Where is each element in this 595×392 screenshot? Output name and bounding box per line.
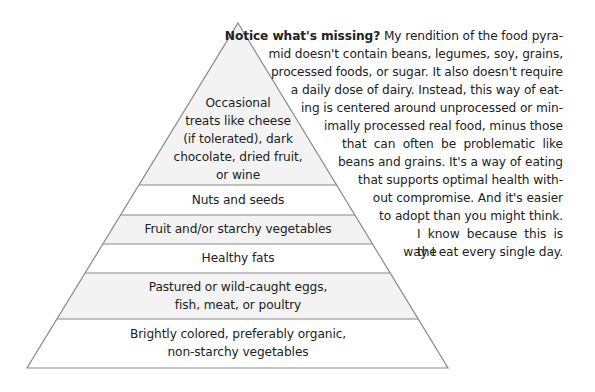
- paragraph-lead: Notice what's missing?: [225, 29, 380, 43]
- paragraph-line: a daily dose of dairy. Instead, this way…: [291, 81, 563, 99]
- tier-6-label: Brightly colored, preferably organic, no…: [58, 325, 418, 361]
- paragraph-line: Notice what's missing? My rendition of t…: [225, 27, 563, 45]
- paragraph-line: imally processed real food, minus those: [324, 117, 563, 135]
- tier-label-line: non-starchy vegetables: [58, 343, 418, 361]
- paragraph-line: ing is centered around unprocessed or mi…: [301, 99, 563, 117]
- tier-label-line: Nuts and seeds: [138, 191, 338, 209]
- tier-5-label: Pastured or wild-caught eggs, fish, meat…: [88, 278, 388, 314]
- tier-label-line: (if tolerated), dark: [148, 130, 328, 148]
- tier-2-label: Nuts and seeds: [138, 191, 338, 209]
- tier-3-label: Fruit and/or starchy vegetables: [108, 220, 368, 238]
- paragraph-text: My rendition of the food pyra-: [380, 29, 563, 43]
- paragraph-line: that supports optimal health with-: [358, 171, 563, 189]
- tier-label-line: Brightly colored, preferably organic,: [58, 325, 418, 343]
- tier-label-line: Fruit and/or starchy vegetables: [108, 220, 368, 238]
- paragraph-line: mid doesn't contain beans, legumes, soy,…: [268, 45, 563, 63]
- tier-label-line: fish, meat, or poultry: [88, 296, 388, 314]
- tier-label-line: or wine: [148, 166, 328, 184]
- paragraph-line: out compromise. And it's easier: [373, 189, 563, 207]
- tier-label-line: Healthy fats: [108, 249, 368, 267]
- tier-label-line: Pastured or wild-caught eggs,: [88, 278, 388, 296]
- paragraph-line: processed foods, or sugar. It also doesn…: [271, 63, 563, 81]
- tier-4-label: Healthy fats: [108, 249, 368, 267]
- paragraph-line: to adopt than you might think.: [379, 207, 563, 225]
- paragraph-line: that can often be problematic like: [342, 135, 563, 153]
- paragraph-line: beans and grains. It's a way of eating: [338, 153, 563, 171]
- tier-label-line: chocolate, dried fruit,: [148, 148, 328, 166]
- paragraph-line: way I eat every single day.: [403, 243, 563, 261]
